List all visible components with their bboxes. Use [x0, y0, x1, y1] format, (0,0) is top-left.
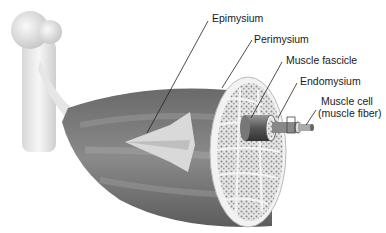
label-muscle-cell: Muscle cell	[321, 95, 373, 107]
bone	[11, 11, 62, 152]
label-perimysium: Perimysium	[254, 33, 309, 45]
label-muscle-fiber: (muscle fiber)	[318, 107, 382, 119]
label-endomysium: Endomysium	[300, 75, 361, 87]
label-muscle-fascicle: Muscle fascicle	[286, 54, 357, 66]
label-epimysium: Epimysium	[212, 12, 263, 24]
